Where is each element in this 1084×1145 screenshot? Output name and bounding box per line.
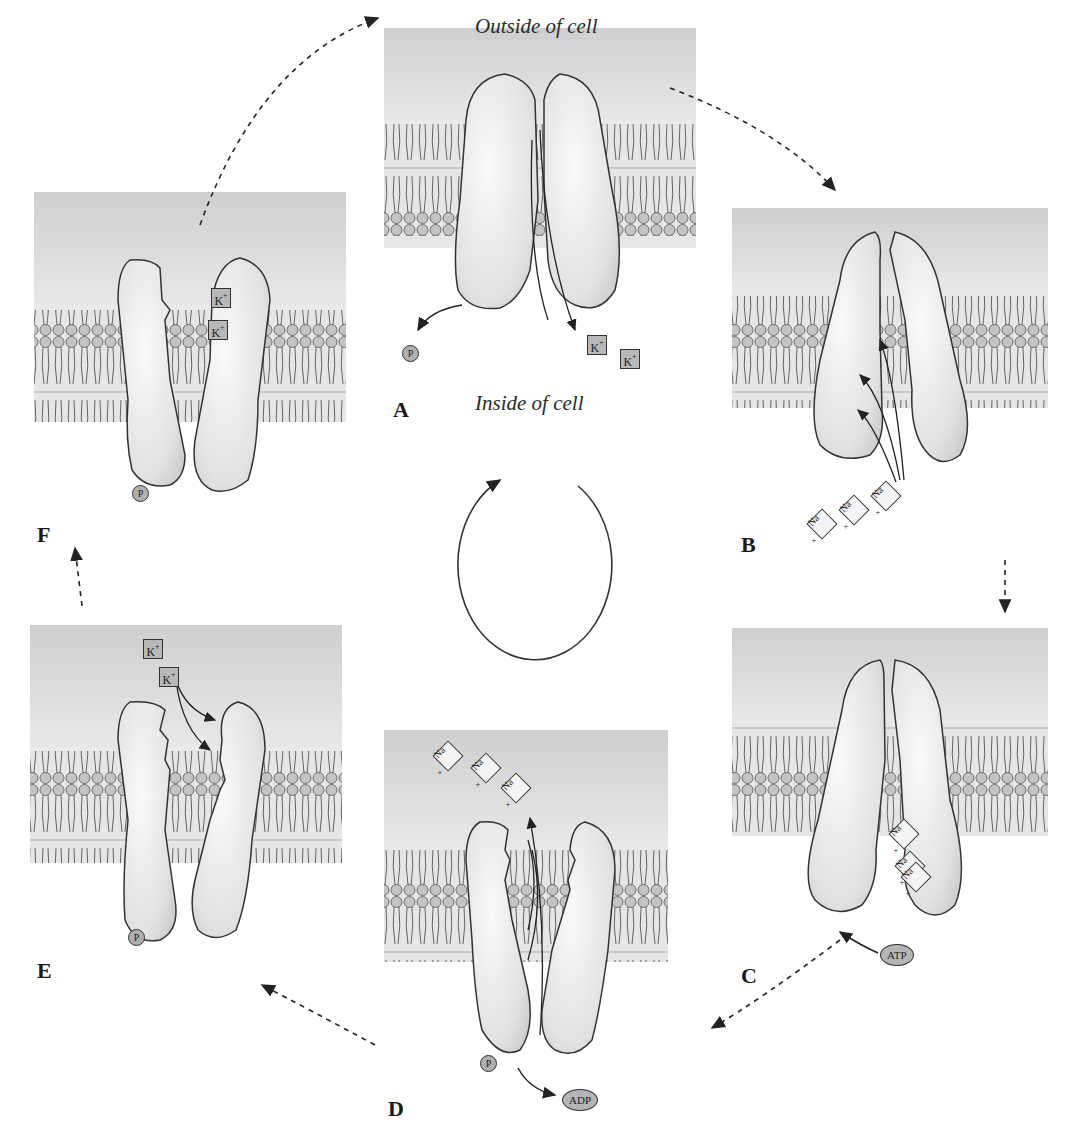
stage-label-f: F [37, 522, 50, 548]
stage-label-d: D [388, 1096, 404, 1122]
potassium-ion-icon: K+ [211, 288, 231, 308]
panel-f [34, 192, 346, 491]
panel-e [30, 625, 342, 941]
phosphate-icon: P [480, 1055, 497, 1072]
panel-a [384, 28, 696, 330]
phosphate-icon: P [128, 929, 145, 946]
atp-icon: ATP [880, 944, 914, 966]
panel-b [732, 208, 1048, 482]
potassium-ion-icon: K+ [159, 667, 179, 687]
potassium-ion-icon: K+ [587, 335, 607, 355]
panel-c [732, 628, 1048, 953]
cycle-arrow [458, 480, 612, 660]
stage-label-b: B [741, 532, 756, 558]
phosphate-icon: P [132, 485, 149, 502]
inside-of-cell-label: Inside of cell [475, 391, 583, 416]
potassium-ion-icon: K+ [208, 320, 228, 340]
adp-icon: ADP [562, 1089, 598, 1111]
outside-of-cell-label: Outside of cell [475, 14, 597, 39]
stage-label-e: E [37, 958, 52, 984]
potassium-ion-icon: K+ [143, 639, 163, 659]
phosphate-icon: P [402, 345, 419, 362]
stage-label-c: C [741, 963, 757, 989]
stage-label-a: A [393, 397, 409, 423]
potassium-ion-icon: K+ [620, 349, 640, 369]
diagram-canvas [0, 0, 1084, 1145]
